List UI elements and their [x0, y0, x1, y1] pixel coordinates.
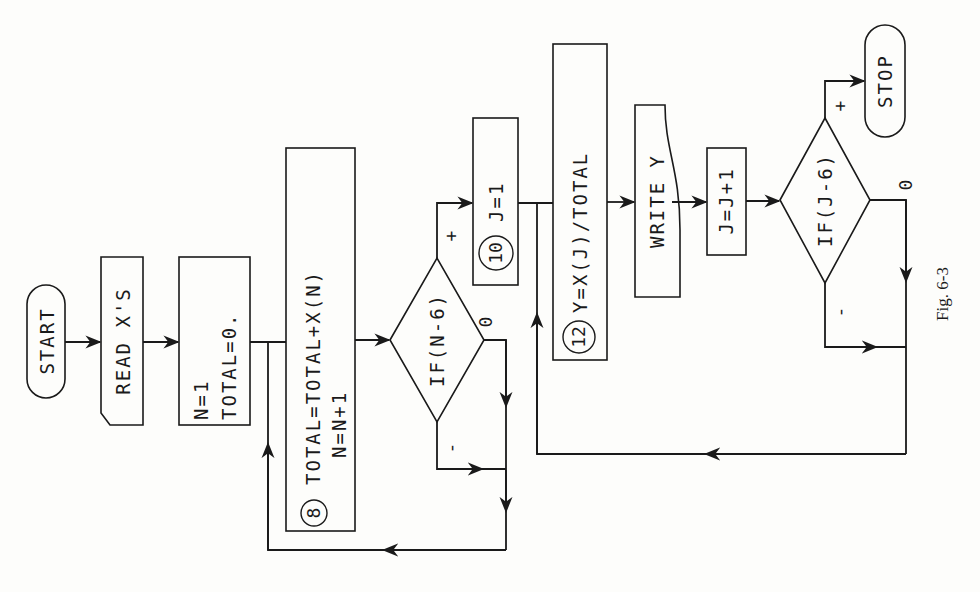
test-n-minus-label: - — [440, 443, 461, 454]
inc-j-process-node: J=J+1 — [707, 148, 746, 255]
test-n-zero-label: 0 — [475, 317, 496, 328]
flowchart: START READ X'S N=1 TOTAL=0. 8 TOTAL=TOTA… — [0, 0, 980, 592]
inc-j-label: J=J+1 — [715, 167, 737, 234]
edge-test-j-zero — [870, 200, 906, 454]
accumulate-line2: N=N+1 — [328, 391, 350, 458]
read-input-node: READ X'S — [101, 257, 143, 425]
test-j-zero-label: 0 — [895, 180, 916, 191]
start-label: START — [36, 307, 58, 374]
test-j-minus-label: - — [829, 307, 850, 318]
set-j-label: J=1 — [485, 182, 507, 222]
figure-caption: Fig. 6-3 — [933, 267, 952, 321]
write-output-node: WRITE Y — [635, 105, 680, 297]
write-label: WRITE Y — [646, 154, 668, 248]
compute-y-process-node: 12 Y=X(J)/TOTAL — [553, 44, 607, 360]
step-number-8: 8 — [303, 508, 324, 519]
test-n-label: IF(N-6) — [426, 293, 448, 387]
stop-terminal: STOP — [865, 25, 905, 137]
edge-test-n-zero — [484, 340, 506, 550]
stop-label: STOP — [874, 54, 896, 108]
set-j-process-node: 10 J=1 — [473, 118, 518, 285]
step-number-12: 12 — [568, 326, 589, 348]
test-j-label: IF(J-6) — [814, 153, 836, 247]
test-n-decision: IF(N-6) — [390, 258, 484, 422]
init-process-node: N=1 TOTAL=0. — [179, 257, 250, 425]
edge-test-j-plus — [825, 81, 864, 118]
step-number-10: 10 — [485, 242, 506, 264]
test-j-plus-label: + — [829, 100, 850, 111]
compute-y-label: Y=X(J)/TOTAL — [569, 152, 591, 313]
accumulate-line1: TOTAL=TOTAL+X(N) — [302, 270, 324, 485]
start-terminal: START — [27, 285, 65, 398]
accumulate-process-node: 8 TOTAL=TOTAL+X(N) N=N+1 — [286, 148, 355, 531]
init-line2: TOTAL=0. — [218, 312, 240, 420]
read-label: READ X'S — [112, 287, 134, 395]
edge-test-n-plus — [437, 203, 472, 258]
test-n-plus-label: + — [440, 230, 461, 241]
init-line1: N=1 — [190, 380, 212, 420]
test-j-decision: IF(J-6) — [780, 118, 870, 283]
